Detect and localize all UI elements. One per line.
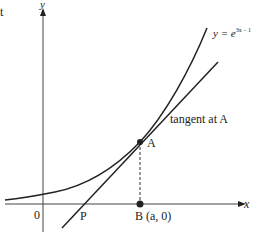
- curve-equation-exponent: 3x − 1: [236, 27, 251, 33]
- origin-label: 0: [34, 209, 40, 221]
- point-B: [137, 201, 144, 208]
- corner-text: t: [0, 6, 3, 18]
- point-P-label: P: [80, 210, 87, 222]
- point-A-label: A: [147, 137, 156, 149]
- x-axis-label: x: [244, 198, 249, 210]
- curve-equation-base: y = e: [213, 27, 236, 39]
- y-axis-label: y: [40, 0, 45, 10]
- point-A: [137, 139, 143, 145]
- curve-equation-label: y = e3x − 1: [213, 24, 251, 39]
- tangent-label: tangent at A: [170, 113, 228, 125]
- point-B-label: B (a, 0): [135, 210, 171, 222]
